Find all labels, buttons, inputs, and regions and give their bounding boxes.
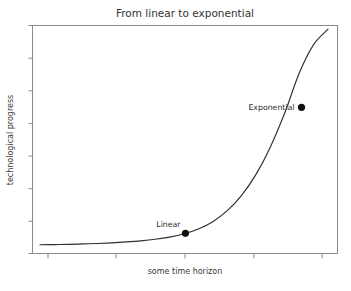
exponential-annotation-label: Exponential xyxy=(248,103,294,112)
linear-marker-dot xyxy=(182,230,189,237)
plot-background xyxy=(32,25,338,254)
exponential-marker-dot xyxy=(298,104,305,111)
chart-figure: From linear to exponential technological… xyxy=(0,0,351,291)
x-axis-label: some time horizon xyxy=(148,267,223,276)
x-axis-ticks xyxy=(48,254,322,259)
y-axis-ticks xyxy=(29,26,33,254)
y-axis-label: technological progress xyxy=(6,95,15,186)
linear-annotation-label: Linear xyxy=(156,220,181,229)
chart-canvas: From linear to exponential technological… xyxy=(0,0,351,291)
chart-title: From linear to exponential xyxy=(116,7,254,19)
